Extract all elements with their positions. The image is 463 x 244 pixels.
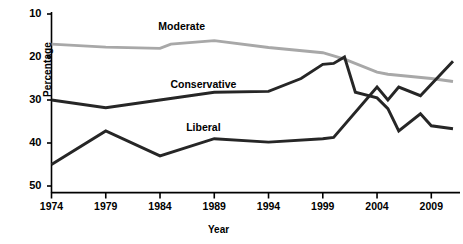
x-tick-label: 1984 [140, 200, 180, 212]
chart-container: Percentage Year 5040302010 1974197919841… [0, 0, 463, 244]
y-tick-label: 10 [16, 7, 42, 19]
x-tick-label: 1974 [32, 200, 72, 212]
series-line-moderate [52, 41, 454, 82]
x-tick-label: 2009 [411, 200, 451, 212]
chart-series-group [52, 41, 454, 165]
y-tick-label: 20 [16, 50, 42, 62]
y-axis-title: Percentage [42, 25, 53, 115]
x-tick-label: 1999 [303, 200, 343, 212]
x-axis-ticks [52, 193, 432, 199]
series-label-liberal: Liberal [186, 121, 220, 133]
x-tick-label: 1989 [194, 200, 234, 212]
x-tick-label: 1979 [86, 200, 126, 212]
chart-axes [47, 12, 460, 199]
x-axis-title: Year [208, 224, 229, 235]
y-tick-label: 50 [16, 179, 42, 191]
series-line-liberal [52, 61, 454, 164]
series-label-moderate: Moderate [158, 20, 205, 32]
x-tick-label: 2004 [357, 200, 397, 212]
series-label-conservative: Conservative [170, 78, 236, 90]
x-tick-label: 1994 [249, 200, 289, 212]
y-tick-label: 40 [16, 136, 42, 148]
y-tick-label: 30 [16, 93, 42, 105]
